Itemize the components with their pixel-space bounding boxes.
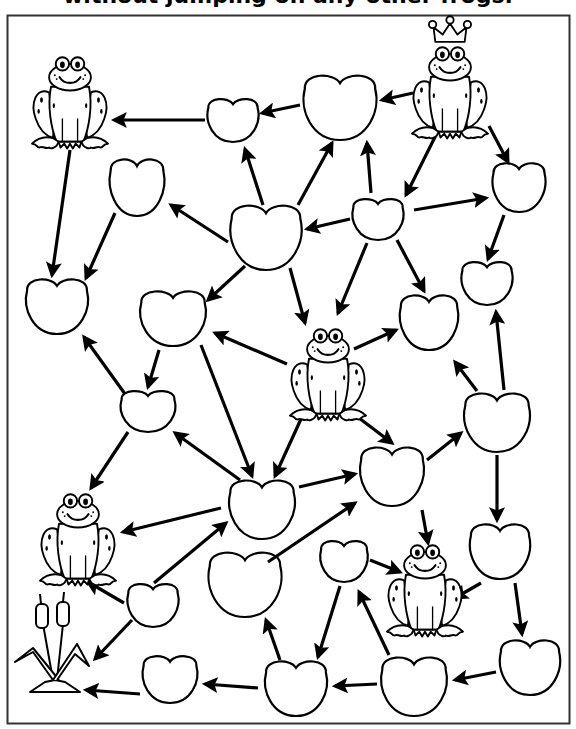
- arrow-p16-to-p20: [318, 586, 340, 657]
- arrow-p20-to-p17: [266, 620, 280, 660]
- lily-pad-p10[interactable]: [461, 262, 512, 305]
- arrow-p15-to-p19: [515, 583, 522, 634]
- lily-pad-p18[interactable]: [127, 584, 178, 627]
- arrow-p11-to-p7: [84, 337, 125, 394]
- arrow-p21-to-p16: [359, 592, 389, 655]
- lily-pad-p21[interactable]: [381, 658, 447, 716]
- arrow-p4-to-p2: [298, 143, 332, 205]
- arrow-p12-to-p9: [455, 362, 477, 391]
- arrow-p4-to-p1: [245, 149, 263, 205]
- lily-pad-p20[interactable]: [265, 661, 327, 716]
- lily-pad-p22[interactable]: [143, 656, 198, 703]
- lily-pad-p6[interactable]: [493, 163, 546, 212]
- lily-pad-p13[interactable]: [229, 481, 295, 539]
- arrow-p5-to-p9: [397, 240, 424, 291]
- frog-icon[interactable]: [40, 494, 116, 585]
- arrow-p5-to-p6: [414, 198, 486, 210]
- arrow-frog-king-to-p6: [489, 126, 508, 162]
- lily-pad-p7[interactable]: [26, 279, 88, 334]
- arrow-p5-to-p4: [307, 219, 350, 229]
- arrow-p11-to-frog-bottom-left: [91, 432, 128, 488]
- cattails-icon[interactable]: [15, 592, 89, 692]
- arrow-p14-to-frog-bottom-right: [422, 510, 428, 543]
- lily-pad-p3[interactable]: [110, 159, 165, 216]
- frog-icon[interactable]: [32, 57, 108, 148]
- arrow-p20-to-p22: [205, 684, 258, 688]
- king-frog-icon[interactable]: [412, 16, 488, 138]
- arrow-frog-center-to-p8: [215, 333, 287, 364]
- arrow-p6-to-p10: [488, 215, 504, 259]
- arrow-p5-to-p2: [367, 143, 371, 193]
- arrow-p21-to-p20: [335, 684, 377, 686]
- arrow-p4-to-frog-center: [290, 268, 305, 323]
- lily-pad-p9[interactable]: [400, 295, 458, 350]
- arrow-p4-to-p3: [171, 205, 228, 242]
- arrow-p8-to-p11: [148, 350, 159, 387]
- arrow-p12-to-p10: [496, 312, 504, 390]
- lily-pad-p14[interactable]: [360, 448, 424, 506]
- frog-icon[interactable]: [290, 329, 366, 420]
- arrow-p14-to-p12: [427, 433, 461, 460]
- lily-pad-p12[interactable]: [464, 394, 530, 452]
- frog-icon[interactable]: [387, 545, 463, 636]
- arrow-p18-to-cattails: [95, 620, 132, 659]
- lily-pad-p5[interactable]: [352, 199, 403, 240]
- arrow-frog-center-to-p13: [275, 419, 301, 476]
- arrow-frog-center-to-p9: [354, 330, 396, 349]
- arrow-p2-to-p1: [262, 105, 300, 113]
- arrow-frog-king-to-p5: [406, 133, 437, 195]
- lily-pad-p8[interactable]: [140, 291, 206, 346]
- maze-board: [0, 0, 576, 729]
- lily-pads: [26, 76, 560, 716]
- lily-pad-p11[interactable]: [121, 391, 176, 432]
- arrow-frog-king-to-p2: [382, 93, 413, 100]
- arrow-p19-to-p21: [455, 672, 496, 680]
- arrow-p5-to-frog-center: [338, 243, 367, 313]
- lily-pad-p15[interactable]: [470, 524, 530, 579]
- arrow-p13-to-p11: [175, 433, 240, 480]
- arrow-p3-to-p7: [86, 213, 115, 278]
- arrow-frog-center-to-p14: [359, 418, 392, 443]
- arrow-p22-to-cattails: [86, 690, 140, 694]
- arrow-p13-to-frog-bottom-left: [123, 508, 221, 532]
- lily-pad-p19[interactable]: [500, 640, 560, 695]
- lily-pad-p16[interactable]: [320, 541, 367, 582]
- lily-pad-p2[interactable]: [304, 76, 377, 140]
- arrow-p13-to-p14: [299, 474, 355, 487]
- lily-pad-p1[interactable]: [207, 99, 258, 142]
- arrow-p4-to-p8: [208, 266, 245, 300]
- lily-pad-p4[interactable]: [230, 206, 301, 270]
- crown-icon: [429, 16, 471, 42]
- arrow-p16-to-frog-bottom-right: [370, 560, 400, 572]
- arrow-frog-top-left-to-p7: [52, 150, 70, 275]
- lily-pad-p17[interactable]: [209, 553, 282, 617]
